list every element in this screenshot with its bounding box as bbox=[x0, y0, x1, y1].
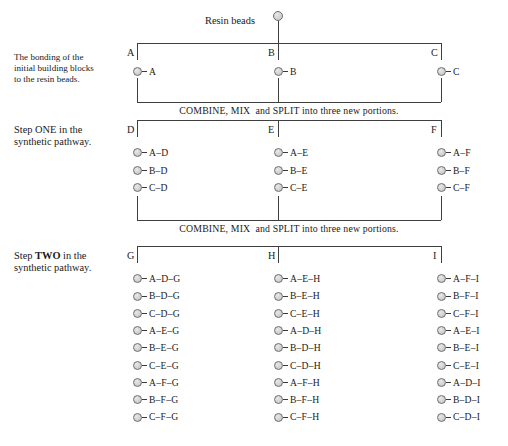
bead-label: A–F bbox=[453, 148, 471, 158]
bead-label: C bbox=[453, 67, 460, 77]
bead-label: B–D–I bbox=[453, 395, 480, 405]
bead-label: A–F–H bbox=[290, 378, 320, 388]
bead-icon bbox=[274, 326, 283, 335]
bead-label: B–E–G bbox=[149, 343, 179, 353]
split-drop-i bbox=[441, 246, 442, 263]
bead-item: B–D–I bbox=[437, 395, 480, 405]
bead-connector bbox=[142, 296, 147, 297]
column-letter-a: A bbox=[127, 48, 134, 58]
bead-connector bbox=[446, 296, 451, 297]
bead-label: A–E–H bbox=[290, 274, 320, 284]
bead-icon bbox=[437, 326, 446, 335]
bead-connector bbox=[142, 382, 147, 383]
bead-label: B–F–H bbox=[290, 395, 319, 405]
resin-beads-label: Resin beads bbox=[205, 15, 255, 26]
bead-icon bbox=[133, 309, 142, 318]
bead-icon bbox=[133, 67, 142, 76]
bead-item: C–D–G bbox=[133, 309, 180, 319]
pool-riser-e bbox=[278, 196, 279, 220]
bead-label: C–F–I bbox=[453, 309, 479, 319]
resin-beads-label-wrap: Resin beads bbox=[205, 10, 255, 28]
bead-label: B–E–I bbox=[453, 343, 479, 353]
bead-connector bbox=[283, 278, 288, 279]
split-drop-d bbox=[137, 120, 138, 137]
bead-connector bbox=[446, 313, 451, 314]
bead-connector bbox=[446, 382, 451, 383]
bead-connector bbox=[283, 347, 288, 348]
bead-item: C–E–G bbox=[133, 361, 179, 371]
bead-item: B–D bbox=[133, 166, 168, 176]
bead-icon bbox=[437, 148, 446, 157]
combine-mix-split-text-2: COMBINE, MIX and SPLIT into three new po… bbox=[137, 223, 441, 234]
stage-caption-initial: The bonding of the initial building bloc… bbox=[14, 52, 134, 86]
bead-item: B–E bbox=[274, 166, 308, 176]
step-one-prefix: Step bbox=[14, 124, 35, 135]
bead-connector bbox=[283, 296, 288, 297]
bead-item: B–E–G bbox=[133, 343, 179, 353]
bead-connector bbox=[446, 170, 451, 171]
bead-icon bbox=[274, 148, 283, 157]
combine-mix-split-text-1: COMBINE, MIX and SPLIT into three new po… bbox=[137, 105, 441, 116]
bead-connector bbox=[283, 417, 288, 418]
column-letter-g: G bbox=[127, 251, 134, 261]
bead-item: A–D–H bbox=[274, 326, 321, 336]
bead-label: C–F–H bbox=[290, 412, 319, 422]
split-drop-b bbox=[278, 43, 279, 60]
column-letter-i: I bbox=[433, 251, 436, 261]
column-letter-c: C bbox=[431, 48, 438, 58]
bead-item: B–D–G bbox=[133, 291, 180, 301]
bead-item: B–F bbox=[437, 166, 470, 176]
bead-item: C–F bbox=[437, 183, 470, 193]
bead-icon bbox=[274, 166, 283, 175]
bead-icon bbox=[133, 292, 142, 301]
pool-riser-c bbox=[441, 78, 442, 102]
bead-connector bbox=[446, 71, 451, 72]
bead-connector bbox=[283, 399, 288, 400]
bead-label: B–F–I bbox=[453, 291, 479, 301]
bead-connector bbox=[142, 170, 147, 171]
split-drop-e bbox=[278, 120, 279, 137]
bead-connector bbox=[446, 330, 451, 331]
bead-connector bbox=[446, 365, 451, 366]
bead-connector bbox=[283, 152, 288, 153]
step-two-prefix: Step bbox=[14, 250, 35, 261]
bead-item: A–D bbox=[133, 148, 168, 158]
bead-item: B–E–I bbox=[437, 343, 479, 353]
split-pool-synthesis-diagram: Resin beads The bonding of the initial b… bbox=[0, 0, 508, 446]
bead-icon bbox=[133, 343, 142, 352]
pool-riser-d bbox=[137, 196, 138, 220]
bead-item: A–E–G bbox=[133, 326, 179, 336]
column-letter-d: D bbox=[127, 125, 134, 135]
bead-icon bbox=[437, 395, 446, 404]
bead-label: C–D–G bbox=[149, 309, 180, 319]
bead-label: B–E bbox=[290, 166, 308, 176]
bead-icon bbox=[274, 67, 283, 76]
split-bar-stage-one bbox=[137, 120, 441, 121]
bead-label: A–E–G bbox=[149, 326, 179, 336]
bead-connector bbox=[283, 71, 288, 72]
bead-item: A bbox=[133, 67, 156, 77]
bead-icon bbox=[133, 395, 142, 404]
stage-caption-step-one: Step ONE in the synthetic pathway. bbox=[14, 124, 134, 147]
split-drop-a bbox=[137, 43, 138, 60]
pool-riser-b bbox=[278, 78, 279, 102]
source-stem-line bbox=[278, 21, 279, 43]
bead-item: A–E–I bbox=[437, 326, 480, 336]
bead-item: C–D bbox=[133, 183, 168, 193]
column-letter-e: E bbox=[268, 125, 274, 135]
bead-item: A–D–I bbox=[437, 378, 481, 388]
bead-item: B–E–H bbox=[274, 291, 320, 301]
bead-label: A–D–G bbox=[149, 274, 180, 284]
bead-label: C–F–G bbox=[149, 412, 178, 422]
bead-icon bbox=[133, 183, 142, 192]
bead-connector bbox=[142, 330, 147, 331]
bead-label: B–D–G bbox=[149, 291, 180, 301]
bead-item: C–F–I bbox=[437, 309, 479, 319]
step-one-emphasis: ONE bbox=[35, 124, 56, 135]
split-drop-c bbox=[441, 43, 442, 60]
bead-icon bbox=[133, 378, 142, 387]
bead-label: C–E–G bbox=[149, 361, 179, 371]
bead-item: A–F–H bbox=[274, 378, 320, 388]
bead-item: B–F–I bbox=[437, 291, 479, 301]
bead-connector bbox=[142, 313, 147, 314]
